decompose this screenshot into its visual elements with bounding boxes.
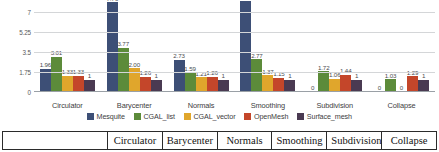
bar-slot[interactable]: 1.21 [196,2,207,91]
legend-item[interactable]: Surface_mesh [297,112,352,121]
bar-value-label: 1.21 [195,70,206,77]
legend-swatch [87,113,94,120]
bar[interactable]: 1.26 [207,77,218,91]
table-header-cell: Circulator [108,132,163,150]
bar[interactable]: 1 [351,80,362,91]
bar[interactable]: 1 [84,80,95,91]
bar-slot[interactable]: 1.44 [340,2,351,91]
bar-slot[interactable]: 12.94 [240,2,251,91]
bar-slot[interactable]: 3.01 [51,2,62,91]
bar[interactable]: 1.33 [73,76,84,91]
bar-group: 12.942.771.371.151 [234,2,301,91]
chart-page: 01.753.55.257 1.963.011.331.3317.763.772… [0,0,439,152]
bar[interactable]: 12.94 [240,1,251,91]
bar-slot[interactable]: 1 [151,2,162,91]
bar-slot[interactable]: 2.00 [129,2,140,91]
bar[interactable]: 1.21 [196,77,207,91]
bar-slot[interactable]: 1.03 [385,2,396,91]
bar-slot[interactable]: 0 [307,2,318,91]
bar-chart: 01.753.55.257 1.963.011.331.3317.763.772… [0,0,439,126]
bar[interactable]: 1.03 [385,79,396,91]
bar-slot[interactable]: 0 [396,2,407,91]
category-label: Circulator [34,101,101,110]
bar[interactable]: 1.06 [329,79,340,91]
bar[interactable]: 7.76 [107,2,118,91]
bar-slot[interactable]: 1.59 [185,2,196,91]
bar-value-label: 1 [422,72,425,79]
table-row: CirculatorBarycenterNormalsSmoothingSubd… [3,132,437,150]
bar[interactable]: 1.37 [262,75,273,91]
x-axis-line [34,91,435,92]
y-axis-tick: 5.25 [19,29,31,36]
bar[interactable]: 1.26 [140,77,151,91]
bar-value-label: 1 [155,72,158,79]
bar[interactable]: 1.72 [318,71,329,91]
bar-value-label: 2.00 [129,61,140,68]
bar-slot[interactable]: 1.96 [40,2,51,91]
bar[interactable]: 3.77 [118,48,129,91]
gridline [34,72,435,73]
bar-slot[interactable]: 1.15 [273,2,284,91]
legend-label: Mesquite [97,112,125,121]
bar-value-label: 1.72 [318,64,329,71]
y-axis-tick: 7 [28,9,31,16]
bar-group: 01.721.061.441 [301,2,368,91]
bar-value-label: 0 [311,84,314,91]
table-header-cell: Normals [217,132,272,150]
bar[interactable]: 1.15 [273,78,284,91]
bar[interactable]: 1.33 [62,76,73,91]
bar-slot[interactable]: 0 [374,2,385,91]
table-blank-cell [3,132,108,150]
bar-slot[interactable]: 1.72 [318,2,329,91]
gridline [34,52,435,53]
category-label: Subdivision [301,101,368,110]
bar[interactable]: 1.29 [407,76,418,91]
bar[interactable]: 1 [284,80,295,91]
bar[interactable]: 1 [418,80,429,91]
bar-slot[interactable]: 2.73 [174,2,185,91]
legend-swatch [244,113,251,120]
legend-item[interactable]: CGAL_vector [184,112,236,121]
bar-slot[interactable]: 7.76 [107,2,118,91]
table-header-cell: Collapse [382,132,437,150]
bar-slot[interactable]: 1 [284,2,295,91]
bar-slot[interactable]: 1 [351,2,362,91]
bar-value-label: 0 [378,84,381,91]
bar-slot[interactable]: 3.77 [118,2,129,91]
legend-label: CGAL_list [143,112,174,121]
bar-group: 01.0301.291 [368,2,435,91]
chart-legend: MesquiteCGAL_listCGAL_vectorOpenMeshSurf… [0,112,439,121]
bar-slot[interactable]: 1 [418,2,429,91]
bar[interactable]: 1.44 [340,75,351,91]
legend-item[interactable]: Mesquite [87,112,125,121]
bar[interactable]: 2.77 [251,59,262,91]
bar-slot[interactable]: 1 [84,2,95,91]
bar[interactable]: 1 [151,80,162,91]
legend-label: OpenMesh [254,112,288,121]
bar[interactable]: 3.01 [51,57,62,91]
legend-item[interactable]: OpenMesh [244,112,288,121]
bar-slot[interactable]: 1.37 [262,2,273,91]
bar[interactable]: 1 [218,80,229,91]
bar-slot[interactable]: 1.33 [73,2,84,91]
bar-slot[interactable]: 1 [218,2,229,91]
legend-label: Surface_mesh [307,112,352,121]
bar-value-label: 7.76 [107,0,118,2]
gridline [34,12,435,13]
category-label: Barycenter [101,101,168,110]
plot-area: 1.963.011.331.3317.763.772.001.2612.731.… [34,2,435,92]
bar-value-label: 1 [88,72,91,79]
bar-slot[interactable]: 1.26 [207,2,218,91]
bar-slot[interactable]: 1.26 [140,2,151,91]
bottom-table: CirculatorBarycenterNormalsSmoothingSubd… [2,131,437,150]
category-label: Normals [168,101,235,110]
bar-slot[interactable]: 1.29 [407,2,418,91]
bar[interactable]: 2.73 [174,60,185,91]
bar-slot[interactable]: 2.77 [251,2,262,91]
bar[interactable]: 1.59 [185,73,196,91]
bar-slot[interactable]: 1.33 [62,2,73,91]
bar-slot[interactable]: 1.06 [329,2,340,91]
legend-item[interactable]: CGAL_list [134,112,175,121]
y-axis-tick: 3.5 [23,49,31,56]
legend-swatch [184,113,191,120]
